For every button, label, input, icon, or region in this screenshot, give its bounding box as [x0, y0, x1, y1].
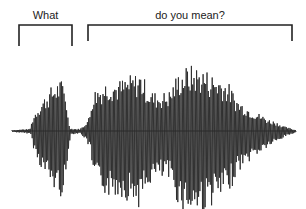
speech-waveform	[12, 66, 296, 209]
segment-brackets	[19, 25, 292, 46]
segment-label-what: What	[33, 9, 59, 21]
waveform-plot	[0, 0, 306, 209]
segment-label-do-you-mean: do you mean?	[155, 9, 225, 21]
bracket-0	[19, 25, 72, 46]
bracket-1	[88, 25, 292, 41]
